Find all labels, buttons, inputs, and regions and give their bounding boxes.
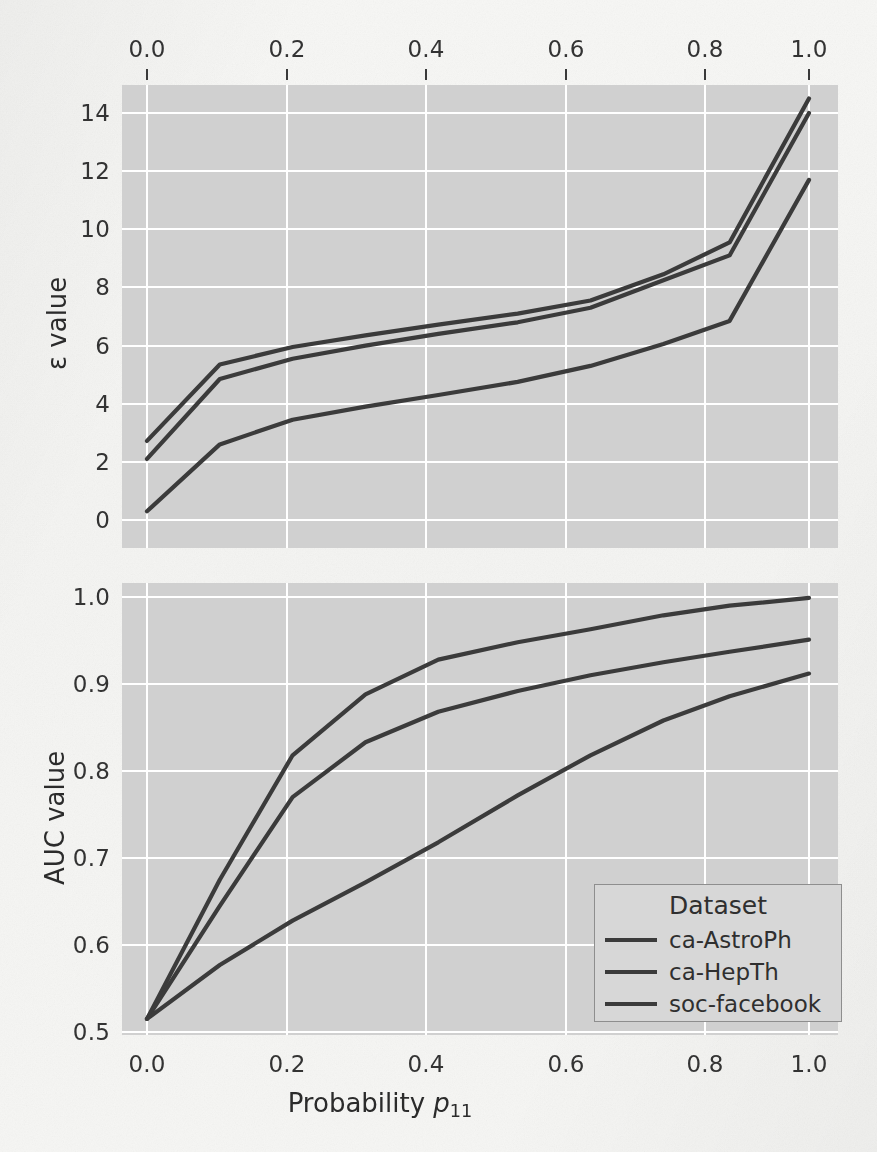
figure: 0.0 0.2 0.4 0.6 0.8 1.0 14 12 10 8 6 4 2… <box>0 0 877 1152</box>
gridlines-vertical <box>147 85 809 548</box>
xtick-label-top-0: 0.0 <box>128 36 165 62</box>
xtick-label-top-3: 0.6 <box>547 36 584 62</box>
ytick-label-epsilon-4: 4 <box>62 391 110 417</box>
epsilon-plot-area <box>122 85 838 548</box>
epsilon-axis-title: ε value <box>42 277 72 370</box>
scan-artifact-top <box>28 2 35 17</box>
legend-title: Dataset <box>605 891 831 921</box>
probability-axis-title-subscript: 11 <box>450 1101 473 1121</box>
xtick-label-top-5: 1.0 <box>790 36 827 62</box>
legend-label-soc-facebook: soc-facebook <box>669 991 821 1017</box>
legend-swatch-soc-facebook <box>605 1002 657 1006</box>
xtick-mark-top-4 <box>704 69 706 80</box>
ytick-label-auc-0.6: 0.6 <box>50 932 110 958</box>
xtick-label-top-4: 0.8 <box>686 36 723 62</box>
xtick-mark-top-3 <box>565 69 567 80</box>
ytick-label-auc-0.9: 0.9 <box>50 671 110 697</box>
xtick-label-bottom-2: 0.4 <box>407 1051 444 1077</box>
ytick-label-epsilon-2: 2 <box>62 449 110 475</box>
xtick-label-top-1: 0.2 <box>268 36 305 62</box>
legend-swatch-ca-hepth <box>605 970 657 974</box>
ytick-label-epsilon-12: 12 <box>62 158 110 184</box>
ytick-label-auc-1.0: 1.0 <box>50 584 110 610</box>
ytick-label-auc-0.5: 0.5 <box>50 1019 110 1045</box>
xtick-label-bottom-3: 0.6 <box>547 1051 584 1077</box>
epsilon-series-lines <box>147 99 809 512</box>
xtick-label-bottom-1: 0.2 <box>268 1051 305 1077</box>
ytick-label-epsilon-10: 10 <box>62 216 110 242</box>
xtick-label-bottom-4: 0.8 <box>686 1051 723 1077</box>
legend-label-ca-hepth: ca-HepTh <box>669 959 779 985</box>
legend-entry-soc-facebook[interactable]: soc-facebook <box>605 988 831 1020</box>
ytick-label-epsilon-0: 0 <box>62 507 110 533</box>
ytick-label-epsilon-14: 14 <box>62 100 110 126</box>
xtick-mark-top-1 <box>286 69 288 80</box>
legend: Dataset ca-AstroPh ca-HepTh soc-facebook <box>594 884 842 1022</box>
line-ca-hepth <box>147 113 809 459</box>
xtick-mark-top-0 <box>146 69 148 80</box>
legend-entry-ca-astroph[interactable]: ca-AstroPh <box>605 924 831 956</box>
probability-axis-title: Probability p11 <box>288 1088 473 1121</box>
probability-axis-title-prefix: Probability <box>288 1088 434 1118</box>
xtick-label-bottom-5: 1.0 <box>790 1051 827 1077</box>
epsilon-plot-svg <box>122 85 838 548</box>
xtick-mark-top-5 <box>808 69 810 80</box>
xtick-label-bottom-0: 0.0 <box>128 1051 165 1077</box>
legend-entry-ca-hepth[interactable]: ca-HepTh <box>605 956 831 988</box>
auc-axis-title: AUC value <box>40 751 70 885</box>
legend-swatch-ca-astroph <box>605 938 657 942</box>
legend-label-ca-astroph: ca-AstroPh <box>669 927 792 953</box>
probability-axis-title-symbol: p <box>433 1088 450 1118</box>
xtick-label-top-2: 0.4 <box>407 36 444 62</box>
xtick-mark-top-2 <box>425 69 427 80</box>
